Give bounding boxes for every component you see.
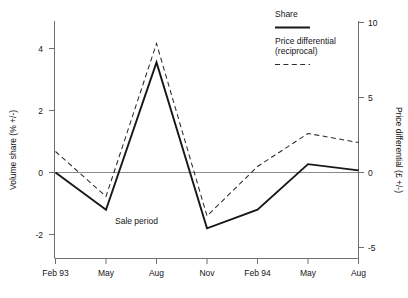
right-tick-label-0: 0 [368,168,373,178]
line-chart-canvas: 4 2 0 -2 10 5 0 -5 Feb 93 May [0,0,408,298]
right-tick-label-5: 5 [368,93,373,103]
x-tick-label-may-93: May [98,268,115,278]
right-axis-ticks: 10 5 0 -5 [359,18,378,253]
legend-label-share: Share [275,9,298,19]
left-tick-label-neg2: -2 [35,230,43,240]
x-tick-label-aug-94: Aug [351,268,366,278]
x-tick-label-nov-93: Nov [199,268,215,278]
annotation-sale-period: Sale period [115,216,158,226]
right-tick-label-neg5: -5 [368,243,376,253]
x-tick-label-feb-93: Feb 93 [42,268,69,278]
x-tick-label-may-94: May [300,268,317,278]
series-line-share [56,62,359,228]
left-tick-label-0: 0 [38,168,43,178]
chart-legend: Share Price differential (reciprocal) [275,9,336,65]
right-axis-title: Price differential (£ +/-) [394,107,404,193]
x-tick-label-feb-94: Feb 94 [244,268,271,278]
legend-label-price-differential-line2: (reciprocal) [275,46,318,56]
left-axis-ticks: 4 2 0 -2 [35,44,54,240]
chart-figure: 4 2 0 -2 10 5 0 -5 Feb 93 May [0,0,408,298]
left-tick-label-2: 2 [38,106,43,116]
right-tick-label-10: 10 [368,18,378,28]
x-axis-ticks: Feb 93 May Aug Nov Feb 94 May Aug [42,259,366,279]
series-line-price-differential [56,44,359,217]
x-tick-label-aug-93: Aug [149,268,164,278]
left-tick-label-4: 4 [38,44,43,54]
legend-label-price-differential: Price differential [275,36,336,46]
left-axis-title: Volume share (% +/-) [8,110,18,190]
